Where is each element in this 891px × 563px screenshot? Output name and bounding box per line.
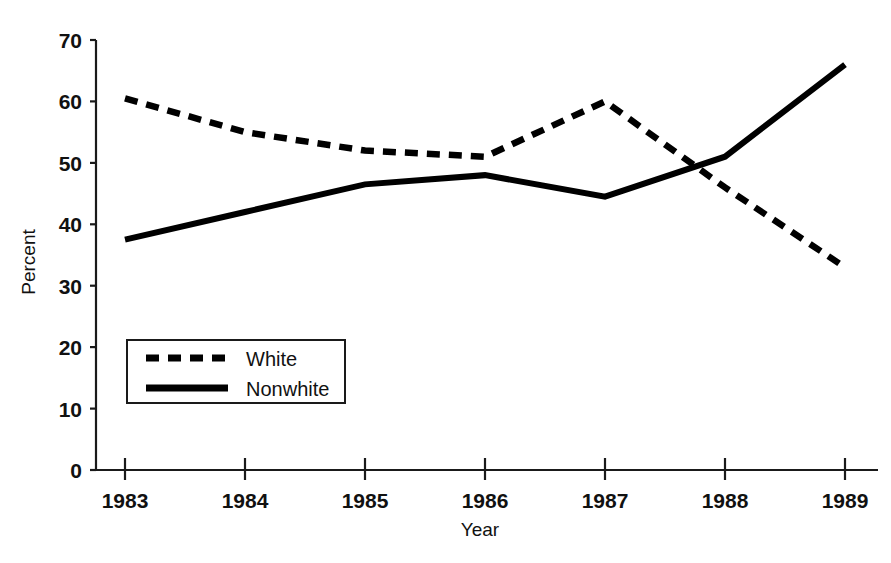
y-tick-label-0: 0	[70, 459, 82, 482]
series-line-white	[125, 98, 845, 267]
legend-label-nonwhite: Nonwhite	[246, 378, 329, 400]
y-tick-label-20: 20	[59, 336, 82, 359]
chart-container: 0 10 20 30 40 50 60 70 1983 1984 1985 19…	[0, 0, 891, 563]
x-tick-label-1985: 1985	[342, 489, 389, 512]
y-tick-label-70: 70	[59, 29, 82, 52]
y-tick-label-40: 40	[59, 213, 82, 236]
legend-label-white: White	[246, 348, 297, 370]
x-tick-label-1983: 1983	[102, 489, 149, 512]
x-tick-label-1989: 1989	[822, 489, 869, 512]
y-tick-label-50: 50	[59, 152, 82, 175]
series-line-nonwhite	[125, 65, 845, 240]
x-axis-title: Year	[461, 519, 500, 540]
x-tick-label-1984: 1984	[222, 489, 269, 512]
chart-legend: White Nonwhite	[127, 340, 345, 403]
x-tick-label-1988: 1988	[702, 489, 749, 512]
y-axis-title: Percent	[18, 229, 39, 295]
x-tick-label-1987: 1987	[582, 489, 629, 512]
y-tick-label-10: 10	[59, 398, 82, 421]
x-tick-label-1986: 1986	[462, 489, 509, 512]
line-chart: 0 10 20 30 40 50 60 70 1983 1984 1985 19…	[0, 0, 891, 563]
y-tick-label-30: 30	[59, 275, 82, 298]
y-tick-label-60: 60	[59, 90, 82, 113]
